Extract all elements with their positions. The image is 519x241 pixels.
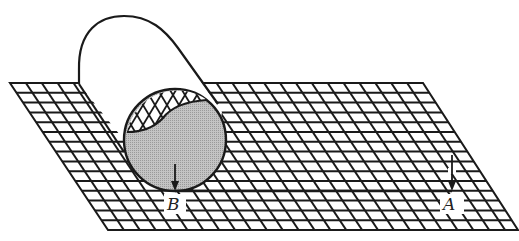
cylinder-on-grid-diagram: B A [0, 0, 519, 241]
label-a: A [441, 194, 455, 214]
label-b: B [166, 194, 180, 214]
